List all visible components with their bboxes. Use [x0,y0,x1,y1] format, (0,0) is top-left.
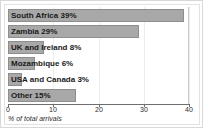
bar-label: South Africa 39% [11,9,77,22]
x-tick-label: 40 [185,106,193,113]
bar-label: Zambia 29% [11,25,57,38]
x-tick-label: 20 [95,106,103,113]
bar-series: South Africa 39%Zambia 29%UK and Ireland… [8,7,188,104]
x-tick-label: 30 [140,106,148,113]
gridline-40 [189,7,190,104]
bar-row: Other 15% [8,89,188,105]
plot-area: South Africa 39%Zambia 29%UK and Ireland… [8,7,189,104]
bar-row: UK and Ireland 8% [8,41,188,57]
chart-frame: South Africa 39%Zambia 29%UK and Ireland… [0,0,203,128]
bar-label: UK and Ireland 8% [11,41,81,54]
x-axis-label: % of total arrivals [8,115,62,122]
x-tick-label: 0 [6,106,10,113]
bar-row: South Africa 39% [8,9,188,25]
bar-label: USA and Canada 3% [11,73,89,86]
bar-label: Other 15% [11,89,51,102]
bar-row: USA and Canada 3% [8,73,188,89]
bar-label: Mozambique 6% [11,57,73,70]
x-tick-label: 10 [49,106,57,113]
bar-row: Zambia 29% [8,25,188,41]
bar-row: Mozambique 6% [8,57,188,73]
